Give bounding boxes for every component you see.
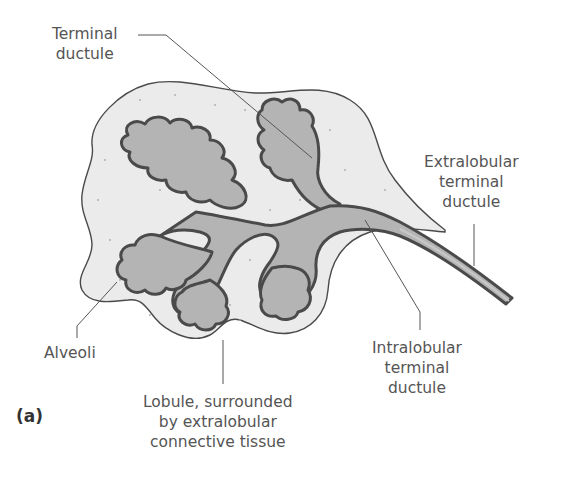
label-line: Extralobular bbox=[424, 152, 519, 172]
label-line: Intralobular bbox=[372, 338, 462, 358]
panel-label: (a) bbox=[16, 406, 43, 426]
label-line: Lobule, surrounded bbox=[143, 392, 293, 412]
alveoli-cluster-bottom-right bbox=[260, 267, 310, 320]
label-line: ductule bbox=[372, 378, 462, 398]
label-lobule: Lobule, surrounded by extralobular conne… bbox=[143, 392, 293, 452]
label-alveoli: Alveoli bbox=[44, 343, 96, 363]
label-line: ductule bbox=[52, 44, 118, 64]
label-line: Terminal bbox=[52, 24, 118, 44]
label-intralobular-terminal-ductule: Intralobular terminal ductule bbox=[372, 338, 462, 398]
label-line: by extralobular bbox=[143, 412, 293, 432]
label-line: ductule bbox=[424, 192, 519, 212]
label-line: connective tissue bbox=[143, 432, 293, 452]
label-terminal-ductule: Terminal ductule bbox=[52, 24, 118, 64]
label-line: Alveoli bbox=[44, 343, 96, 363]
label-line: terminal bbox=[424, 172, 519, 192]
label-line: terminal bbox=[372, 358, 462, 378]
label-extralobular-terminal-ductule: Extralobular terminal ductule bbox=[424, 152, 519, 212]
